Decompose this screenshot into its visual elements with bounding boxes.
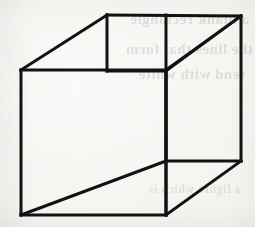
edge-connect-top-left <box>21 15 107 70</box>
edge-inner-top-horizontal <box>166 16 241 71</box>
necker-cube-figure: a blank rectangle the lines that form te… <box>0 0 255 227</box>
edge-connect-bottom-right <box>166 161 241 215</box>
edge-connect-bottom-left <box>21 161 166 215</box>
cube-edge-group <box>21 15 241 215</box>
edge-back-top <box>107 15 241 16</box>
necker-cube-drawing: Line drawing of a transparent wireframe … <box>0 0 255 227</box>
